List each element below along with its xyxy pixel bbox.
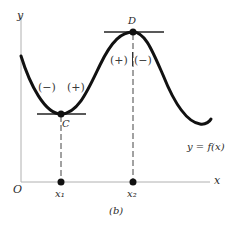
point-D-label: D: [127, 15, 136, 26]
point-x2: [130, 179, 137, 186]
x1-label: x₁: [55, 188, 65, 199]
x-axis-label: x: [214, 174, 221, 187]
x2-label: x₂: [127, 188, 137, 199]
point-D: [130, 29, 137, 36]
figure-caption: (b): [109, 205, 123, 216]
sign-right-of-D: (−): [134, 54, 152, 67]
point-x1: [58, 179, 65, 186]
sign-right-of-C: (+): [67, 81, 85, 94]
point-C: [58, 111, 65, 118]
y-axis-label: y: [16, 9, 24, 22]
function-extrema-diagram: y x O C D x₁ x₂ (−) (+) (+) (−) y = f(x)…: [0, 0, 239, 227]
curve-f-of-x: [21, 32, 211, 124]
curve-label: y = f(x): [186, 141, 225, 152]
sign-left-of-C: (−): [38, 81, 56, 94]
point-C-label: C: [62, 118, 70, 129]
sign-left-of-D: (+): [110, 54, 128, 67]
origin-label: O: [13, 183, 22, 196]
